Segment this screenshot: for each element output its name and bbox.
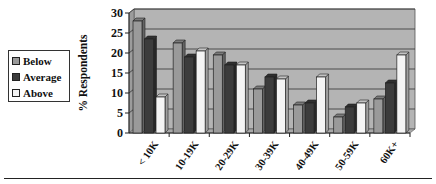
bar-above-2 [236,65,245,133]
legend-swatch-above [12,89,20,97]
bar-above-1 [196,51,205,133]
bar-average-3 [265,77,274,133]
legend-swatch-below [12,57,20,65]
bar-above-6 [397,55,406,133]
bar-above-3 [276,79,285,133]
bar-average-0 [145,39,154,133]
bar-average-2 [225,65,234,133]
bar-below-5 [334,117,343,133]
y-tick-label: 0 [103,126,123,141]
bar-below-4 [294,105,303,133]
bar-average-4 [305,103,314,133]
bar-side [245,62,248,133]
y-axis-label: % Respondents [77,34,89,111]
legend-item-above: Above [12,85,66,101]
y-tick-label: 30 [103,6,123,21]
bar-side [205,48,208,133]
bar-above-4 [317,77,326,133]
legend-label-below: Below [23,55,52,67]
legend-item-below: Below [12,53,66,69]
y-tick-label: 15 [103,66,123,81]
y-tick-label: 20 [103,46,123,61]
y-tick-label: 5 [103,106,123,121]
bar-side [326,74,329,133]
bar-below-2 [213,55,222,133]
bar-side [165,94,168,133]
legend-swatch-average [12,73,20,81]
bar-below-1 [173,43,182,133]
bar-above-5 [357,103,366,133]
bar-above-0 [156,97,165,133]
legend-label-average: Average [23,71,61,83]
legend-label-above: Above [23,87,53,99]
bar-average-1 [185,57,194,133]
bar-average-6 [385,83,394,133]
bar-below-0 [133,21,142,133]
legend-item-average: Average [12,69,66,85]
bar-side [406,52,409,133]
bar-side [366,100,369,133]
y-tick-label: 10 [103,86,123,101]
bar-below-6 [374,99,383,133]
y-tick-label: 25 [103,26,123,41]
bottom-divider [4,178,432,179]
bar-average-5 [345,107,354,133]
legend: Below Average Above [8,50,70,102]
bar-below-3 [253,89,262,133]
bar-side [285,76,288,133]
